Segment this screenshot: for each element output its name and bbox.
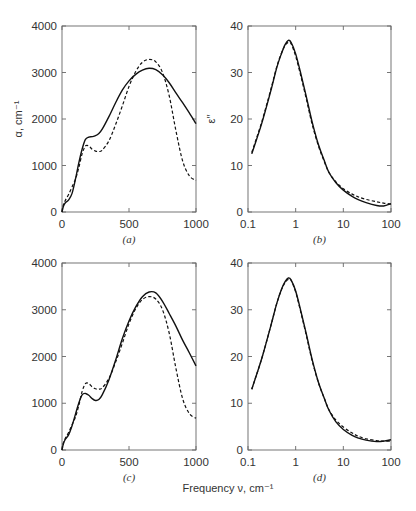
y-tick-label: 40 bbox=[230, 257, 243, 269]
x-tick-label: 0 bbox=[59, 218, 65, 230]
x-tick-label: 10 bbox=[337, 456, 350, 468]
x-tick-label: 1 bbox=[292, 218, 298, 230]
y-tick-label: 10 bbox=[230, 160, 243, 172]
series-solid-line bbox=[62, 68, 196, 212]
x-tick-label: 1000 bbox=[183, 218, 209, 230]
y-tick-label: 40 bbox=[230, 20, 243, 32]
panel-a: 0500100001000200030004000α, cm⁻¹(a) bbox=[12, 20, 209, 246]
series-solid-line bbox=[252, 40, 391, 206]
x-tick-label: 1 bbox=[292, 456, 298, 468]
plot-frame bbox=[248, 263, 391, 450]
x-tick-label: 500 bbox=[119, 456, 138, 468]
y-axis-title: α, cm⁻¹ bbox=[12, 100, 24, 137]
y-tick-label: 1000 bbox=[31, 160, 57, 172]
x-tick-label: 100 bbox=[381, 218, 400, 230]
panel-c: 0500100001000200030004000(c) bbox=[31, 257, 208, 484]
x-tick-label: 0.1 bbox=[240, 218, 256, 230]
x-tick-label: 10 bbox=[337, 218, 350, 230]
y-tick-label: 3000 bbox=[31, 67, 57, 79]
y-axis-title: ε′′ bbox=[205, 114, 217, 123]
y-tick-label: 20 bbox=[230, 113, 243, 125]
series-solid-line bbox=[252, 278, 391, 442]
y-tick-label: 0 bbox=[237, 444, 243, 456]
y-tick-label: 30 bbox=[230, 67, 243, 79]
y-tick-label: 10 bbox=[230, 397, 243, 409]
series-dashed-line bbox=[252, 279, 391, 441]
x-tick-label: 500 bbox=[119, 218, 138, 230]
figure: 0500100001000200030004000α, cm⁻¹(a) 0.11… bbox=[0, 0, 416, 511]
y-tick-label: 30 bbox=[230, 304, 243, 316]
y-tick-label: 4000 bbox=[31, 20, 57, 32]
panel-label: (a) bbox=[123, 233, 136, 246]
series-dashed-line bbox=[252, 42, 391, 204]
x-tick-label: 1000 bbox=[183, 456, 209, 468]
x-tick-label: 0.1 bbox=[240, 456, 256, 468]
y-tick-label: 0 bbox=[51, 206, 57, 218]
panel-label: (b) bbox=[313, 233, 326, 246]
y-tick-label: 4000 bbox=[31, 257, 57, 269]
y-tick-label: 0 bbox=[51, 444, 57, 456]
panel-label: (c) bbox=[123, 471, 136, 484]
y-tick-label: 20 bbox=[230, 351, 243, 363]
plot-frame bbox=[62, 26, 196, 212]
y-tick-label: 1000 bbox=[31, 397, 57, 409]
y-tick-label: 2000 bbox=[31, 113, 57, 125]
plot-frame bbox=[62, 263, 196, 450]
y-tick-label: 3000 bbox=[31, 304, 57, 316]
y-tick-label: 2000 bbox=[31, 351, 57, 363]
x-tick-label: 100 bbox=[381, 456, 400, 468]
shared-x-axis-title: Frequency ν, cm⁻¹ bbox=[183, 482, 274, 494]
plot-frame bbox=[248, 26, 391, 212]
y-tick-label: 0 bbox=[237, 206, 243, 218]
panel-b: 0.1110100010203040ε′′(b) bbox=[205, 20, 401, 246]
panel-d: 0.1110100010203040(d) bbox=[230, 257, 400, 484]
x-tick-label: 0 bbox=[59, 456, 65, 468]
panel-label: (d) bbox=[313, 471, 326, 484]
series-dashed-line bbox=[62, 59, 196, 212]
